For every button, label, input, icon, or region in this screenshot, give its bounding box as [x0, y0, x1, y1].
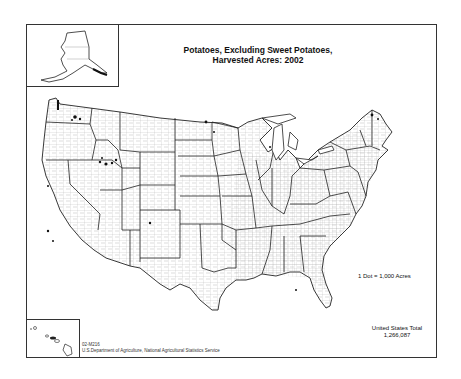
hawaii-inset: [26, 319, 80, 358]
alaska-inset: [26, 24, 119, 87]
title-line-2: Harvested Acres: 2002: [150, 55, 366, 65]
hawaii-map: [27, 320, 81, 359]
total-value: 1,266,087: [366, 332, 428, 339]
source-credit: 02-M216 U.S.Department of Agriculture, N…: [82, 342, 220, 353]
total-label: United States Total: [366, 325, 428, 332]
title-line-1: Potatoes, Excluding Sweet Potatoes,: [150, 45, 366, 55]
map-title: Potatoes, Excluding Sweet Potatoes, Harv…: [150, 45, 366, 65]
dot-legend: 1 Dot = 1,000 Acres: [358, 273, 411, 279]
us-total: United States Total 1,266,087: [366, 325, 428, 339]
source-text: U.S.Department of Agriculture, National …: [82, 348, 220, 354]
alaska-map: [27, 25, 120, 88]
